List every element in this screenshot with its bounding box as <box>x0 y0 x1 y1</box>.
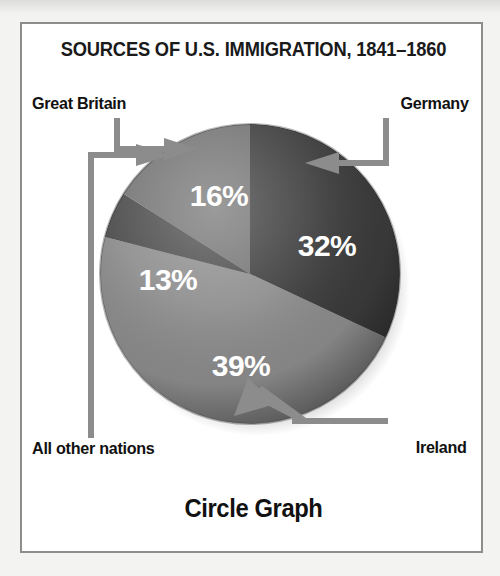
value-all-other-nations: 13% <box>139 263 198 296</box>
pie-slice-ireland <box>100 237 386 423</box>
arrow-great-britain <box>114 118 198 160</box>
arrow-ireland <box>234 378 388 424</box>
pie-outline <box>100 124 400 424</box>
pie-gloss-overlay <box>100 124 400 424</box>
figure-caption: Circle Graph <box>34 494 474 523</box>
paper-edge-shading <box>0 0 500 14</box>
label-germany: Germany <box>401 94 469 114</box>
figure-frame: SOURCES OF U.S. IMMIGRATION, 1841–1860 G… <box>20 22 483 553</box>
figure-title: SOURCES OF U.S. IMMIGRATION, 1841–1860 <box>36 38 471 61</box>
label-all-other-nations: All other nations <box>32 439 155 459</box>
pie-slices <box>100 124 400 423</box>
value-great-britain: 16% <box>190 179 249 212</box>
arrow-all-other-nations <box>88 144 172 438</box>
pie-slice-all-other-nations <box>105 193 250 274</box>
pie-slice-great-britain <box>123 124 250 274</box>
arrow-germany <box>305 118 389 174</box>
label-ireland: Ireland <box>416 438 467 458</box>
label-great-britain: Great Britain <box>32 94 126 114</box>
value-ireland: 39% <box>212 349 271 382</box>
pie-slice-germany <box>250 124 400 338</box>
pie-drop-shadow <box>106 136 410 436</box>
circle-graph-figure: SOURCES OF U.S. IMMIGRATION, 1841–1860 G… <box>0 0 500 576</box>
value-germany: 32% <box>298 229 357 262</box>
